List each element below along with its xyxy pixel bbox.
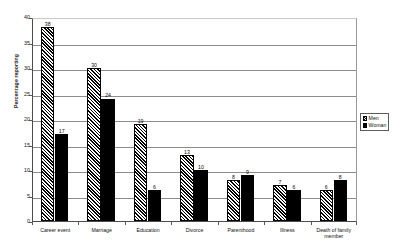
y-tick-label: 40 [12, 15, 30, 20]
bar-value-label: 19 [138, 119, 144, 124]
x-axis-labels: Career eventMarriageEducationDivorcePare… [32, 227, 357, 251]
bar-group: 68 [312, 19, 358, 221]
bar-chart: Percentage reporting 0510152025303540 38… [0, 0, 404, 251]
legend-item: Woman [363, 122, 387, 129]
bar-value-label: 38 [45, 22, 51, 27]
bar-group: 76 [265, 19, 311, 221]
x-tick-label: Education [125, 227, 171, 233]
bar: 9 [241, 175, 255, 221]
x-tick-mark [356, 222, 357, 225]
bar: 17 [55, 134, 69, 221]
x-tick-label: Parenthood [218, 227, 264, 233]
legend-label: Men [369, 116, 379, 121]
x-tick-label: Marriage [78, 227, 124, 233]
y-tick-label: 35 [12, 41, 30, 46]
x-tick-mark [78, 222, 79, 225]
x-axis-ticks [32, 222, 357, 226]
legend: MenWoman [360, 113, 389, 131]
x-tick-label: Divorce [171, 227, 217, 233]
bar: 7 [273, 185, 287, 221]
y-tick-label: 15 [12, 143, 30, 148]
bar: 6 [148, 190, 162, 221]
legend-label: Woman [369, 123, 387, 128]
bar-value-label: 7 [278, 180, 281, 185]
bar-value-label: 6 [153, 185, 156, 190]
y-tick-label: 5 [12, 194, 30, 199]
bar: 10 [194, 170, 208, 221]
x-tick-label: Death of familymember [311, 227, 357, 239]
bar: 30 [87, 68, 101, 221]
bar: 38 [41, 27, 55, 221]
x-tick-mark [218, 222, 219, 225]
y-tick-label: 25 [12, 92, 30, 97]
x-tick-label: Illness [264, 227, 310, 233]
x-tick-mark [264, 222, 265, 225]
bar-value-label: 13 [184, 150, 190, 155]
bar-value-label: 6 [325, 185, 328, 190]
y-tick-label: 30 [12, 66, 30, 71]
y-tick-label: 20 [12, 117, 30, 122]
bar-group: 196 [126, 19, 172, 221]
y-tick-label: 0 [12, 219, 30, 224]
x-tick-mark [125, 222, 126, 225]
legend-swatch-woman [363, 123, 368, 128]
bar-value-label: 17 [59, 129, 65, 134]
x-tick-label: Career event [32, 227, 78, 233]
bar: 6 [287, 190, 301, 221]
plot-area: 381730241961310897668 [32, 18, 357, 222]
bar: 24 [101, 99, 115, 221]
bar: 6 [320, 190, 334, 221]
bar-value-label: 6 [292, 185, 295, 190]
y-axis-ticks: 0510152025303540 [8, 0, 30, 251]
bar: 13 [180, 155, 194, 221]
x-tick-mark [171, 222, 172, 225]
bar-value-label: 9 [246, 170, 249, 175]
bar-group: 3817 [33, 19, 79, 221]
bar-group: 1310 [172, 19, 218, 221]
y-tick-label: 10 [12, 168, 30, 173]
bar-group: 89 [219, 19, 265, 221]
bar: 19 [134, 124, 148, 221]
bar-series-container: 381730241961310897668 [33, 19, 356, 221]
bar: 8 [227, 180, 241, 221]
bar-value-label: 8 [232, 175, 235, 180]
bar-value-label: 10 [198, 165, 204, 170]
bar-group: 3024 [79, 19, 125, 221]
x-tick-mark [32, 222, 33, 225]
bar-value-label: 30 [91, 63, 97, 68]
bar-value-label: 8 [339, 175, 342, 180]
x-tick-mark [311, 222, 312, 225]
bar: 8 [334, 180, 348, 221]
bar-value-label: 24 [105, 93, 111, 98]
legend-swatch-men [363, 116, 368, 121]
